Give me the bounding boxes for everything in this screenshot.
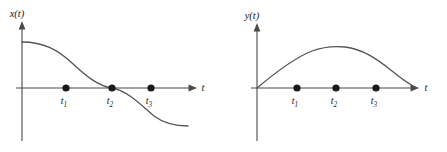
right-curve: [257, 47, 417, 88]
figure-svg: x(t) t t1 t2 t3 y(: [0, 0, 447, 152]
left-panel: x(t) t t1 t2 t3: [9, 8, 206, 141]
right-panel: y(t) t t1 t2 t3: [244, 10, 429, 141]
left-curve: [22, 42, 188, 126]
right-marker-t3: [372, 84, 379, 91]
right-vertical-axis-arrow-icon: [254, 23, 261, 32]
left-marker-t3: [147, 84, 154, 91]
left-tick-label-t2: t2: [107, 95, 114, 109]
left-vertical-axis-label: x(t): [9, 8, 25, 20]
right-marker-t1: [293, 84, 300, 91]
left-horizontal-axis-label: t: [202, 82, 206, 93]
left-marker-t1: [62, 84, 69, 91]
right-vertical-axis-label: y(t): [244, 10, 260, 22]
figure-container: x(t) t t1 t2 t3 y(: [0, 0, 447, 152]
left-marker-t2: [108, 84, 115, 91]
left-vertical-axis-arrow-icon: [19, 21, 26, 30]
right-tick-label-t1: t1: [292, 95, 298, 109]
right-tick-label-t3: t3: [371, 95, 378, 109]
left-tick-label-t3: t3: [146, 95, 153, 109]
right-tick-label-t2: t2: [331, 95, 338, 109]
right-marker-t2: [332, 84, 339, 91]
right-horizontal-axis-label: t: [425, 82, 429, 93]
left-tick-label-t1: t1: [61, 95, 67, 109]
left-horizontal-axis-arrow-icon: [189, 85, 198, 92]
